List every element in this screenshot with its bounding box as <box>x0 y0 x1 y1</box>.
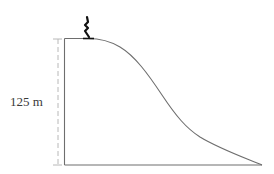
hill-profile <box>65 39 263 166</box>
hill-diagram-svg <box>0 0 274 174</box>
height-label: 125 m <box>10 94 43 110</box>
skier-icon <box>83 17 94 39</box>
hill-diagram: 125 m <box>0 0 274 174</box>
height-dimension-line <box>53 39 62 165</box>
